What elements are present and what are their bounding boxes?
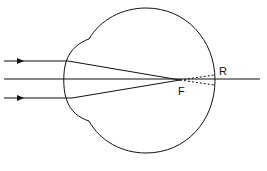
retina-label: R <box>219 65 227 77</box>
eyeball-outline <box>64 8 215 153</box>
eye-diagram: F R <box>0 0 267 171</box>
arrow-icon <box>17 58 24 64</box>
arrow-icon <box>17 95 24 101</box>
lower-ray <box>4 80 180 98</box>
dashed-ray-lower <box>180 80 214 85</box>
upper-ray <box>4 61 180 80</box>
focus-label: F <box>178 85 185 97</box>
